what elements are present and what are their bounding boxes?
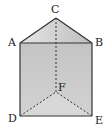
vertex-label-F: F [58,81,66,94]
vertex-label-D: D [8,112,17,125]
vertex-label-A: A [7,36,17,49]
vertex-label-B: B [95,36,103,49]
vertex-label-E: E [95,114,103,127]
vertex-label-C: C [51,3,59,16]
triangular-prism-diagram: C A B F D E [0,0,111,128]
